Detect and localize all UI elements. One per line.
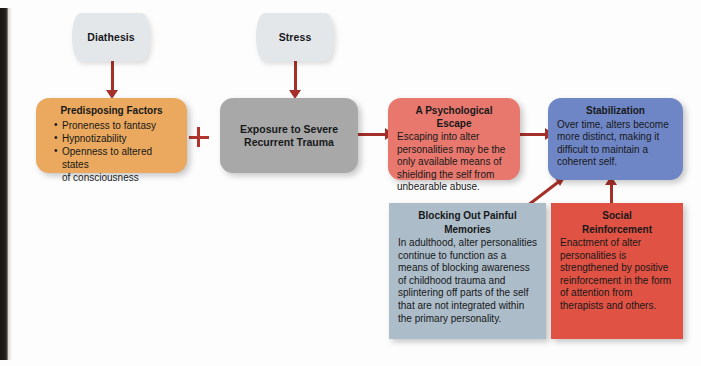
node-stress-label: Stress xyxy=(279,31,312,43)
list-item: Openness to altered states xyxy=(54,145,178,171)
node-psychological-escape-title: A Psychological Escape xyxy=(397,105,511,130)
node-psychological-escape[interactable]: A Psychological Escape Escaping into alt… xyxy=(388,98,520,180)
node-stabilization-body: Over time, alters become more distinct, … xyxy=(557,119,674,169)
node-predisposing-factors-list: Proneness to fantasy Hypnotizability Ope… xyxy=(45,119,178,171)
node-exposure-to-trauma-title-line1: Exposure to Severe xyxy=(240,123,338,137)
node-social-reinforcement-body: Enactment of alter personalities is stre… xyxy=(560,237,674,313)
node-exposure-to-trauma[interactable]: Exposure to Severe Recurrent Trauma xyxy=(220,98,358,173)
node-predisposing-factors-continuation: of consciousness xyxy=(45,171,178,184)
node-stabilization[interactable]: Stabilization Over time, alters become m… xyxy=(548,98,683,180)
list-item: Proneness to fantasy xyxy=(54,119,178,132)
scan-edge-artifact xyxy=(0,8,8,360)
node-blocking-memories-title-line1: Blocking Out Painful xyxy=(398,210,537,223)
node-social-reinforcement-title-line2: Reinforcement xyxy=(560,224,674,237)
list-item: Hypnotizability xyxy=(54,132,178,145)
diagram-canvas: Diathesis Stress Predisposing Factors Pr… xyxy=(0,0,701,366)
node-social-reinforcement-title-line1: Social xyxy=(560,210,674,223)
node-diathesis[interactable]: Diathesis xyxy=(72,13,150,61)
node-blocking-memories-body: In adulthood, alter personalities contin… xyxy=(398,237,537,325)
node-exposure-to-trauma-title-line2: Recurrent Trauma xyxy=(244,136,334,150)
node-social-reinforcement[interactable]: Social Reinforcement Enactment of alter … xyxy=(551,203,683,339)
node-stabilization-title: Stabilization xyxy=(557,105,674,118)
node-blocking-memories[interactable]: Blocking Out Painful Memories In adultho… xyxy=(389,203,546,339)
connector-escape-to-stabilization-line xyxy=(520,133,548,136)
scan-edge-highlight xyxy=(8,8,12,360)
node-stress[interactable]: Stress xyxy=(256,13,334,61)
node-predisposing-factors[interactable]: Predisposing Factors Proneness to fantas… xyxy=(36,98,187,173)
node-diathesis-label: Diathesis xyxy=(87,31,135,43)
node-blocking-memories-title-line2: Memories xyxy=(398,224,537,237)
connector-exposure-to-escape-line xyxy=(358,133,388,136)
plus-operator-vertical xyxy=(197,127,200,147)
list-item-text: Openness to altered states xyxy=(62,146,152,170)
node-predisposing-factors-title: Predisposing Factors xyxy=(45,105,178,118)
node-psychological-escape-body: Escaping into alter personalities may be… xyxy=(397,131,511,194)
